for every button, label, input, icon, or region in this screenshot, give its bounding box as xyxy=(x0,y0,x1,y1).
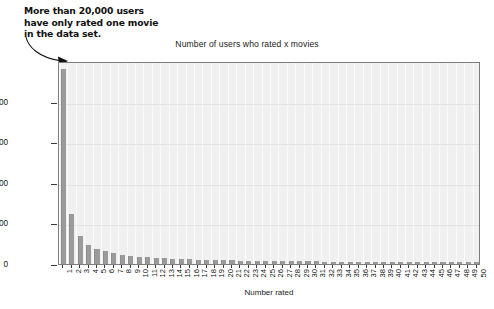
bar xyxy=(103,251,108,264)
x-axis-tick xyxy=(147,265,148,268)
x-axis-tick-label: 42 xyxy=(411,269,420,277)
bar xyxy=(331,262,336,264)
x-axis-tick-label: 26 xyxy=(276,269,285,277)
bar xyxy=(221,260,226,264)
bar xyxy=(390,262,395,264)
bar xyxy=(111,253,116,264)
bar xyxy=(86,245,91,264)
bar xyxy=(407,262,412,264)
bar xyxy=(339,262,344,264)
x-axis-tick xyxy=(79,265,80,268)
bar xyxy=(457,262,462,264)
x-axis-tick xyxy=(164,265,165,268)
bar xyxy=(432,262,437,264)
bar xyxy=(365,262,370,264)
bar xyxy=(196,260,201,264)
x-axis-tick xyxy=(425,265,426,268)
x-axis-tick xyxy=(400,265,401,268)
bar xyxy=(69,214,74,264)
x-axis-tick xyxy=(172,265,173,268)
y-axis-tick xyxy=(51,143,57,144)
x-axis-tick xyxy=(223,265,224,268)
bar xyxy=(373,262,378,264)
x-axis-tick xyxy=(155,265,156,268)
x-axis-tick xyxy=(467,265,468,268)
bar xyxy=(246,261,251,264)
x-axis-tick xyxy=(113,265,114,268)
bar xyxy=(204,260,209,264)
plot-area xyxy=(58,62,480,265)
bar-chart-figure: More than 20,000 users have only rated o… xyxy=(0,0,494,309)
bar xyxy=(322,262,327,264)
bar xyxy=(145,257,150,264)
x-axis-tick xyxy=(214,265,215,268)
x-axis-tick xyxy=(307,265,308,268)
x-axis-tick-label: 50 xyxy=(479,269,488,277)
bar xyxy=(120,255,125,264)
bar xyxy=(289,261,294,264)
y-axis-tick-label: 5,000 xyxy=(0,219,8,228)
bar xyxy=(137,257,142,264)
y-axis-tick xyxy=(51,103,57,104)
x-axis-tick xyxy=(375,265,376,268)
x-axis-tick-label: 12 xyxy=(158,269,167,277)
x-axis-tick xyxy=(273,265,274,268)
x-axis-tick xyxy=(434,265,435,268)
x-axis-tick-label: 24 xyxy=(259,269,268,277)
x-axis-tick xyxy=(88,265,89,268)
y-axis-tick xyxy=(51,265,57,266)
bar xyxy=(280,261,285,264)
x-axis-label: Number rated xyxy=(58,288,480,297)
x-axis-tick xyxy=(299,265,300,268)
x-axis-tick xyxy=(62,265,63,268)
bar xyxy=(424,262,429,264)
bar-series xyxy=(59,63,479,264)
x-axis-tick xyxy=(104,265,105,268)
bar xyxy=(94,249,99,264)
x-axis-tick xyxy=(391,265,392,268)
bar xyxy=(255,261,260,264)
x-axis-tick xyxy=(358,265,359,268)
x-axis-tick-label: 33 xyxy=(335,269,344,277)
y-axis: 05,00010,00015,00020,000 xyxy=(0,0,58,309)
x-axis-tick xyxy=(408,265,409,268)
x-axis-tick xyxy=(239,265,240,268)
bar xyxy=(449,262,454,264)
bar xyxy=(187,259,192,264)
x-axis-tick-label: 35 xyxy=(352,269,361,277)
bar xyxy=(415,262,420,264)
x-axis-tick-label: 19 xyxy=(217,269,226,277)
x-axis-tick xyxy=(96,265,97,268)
x-axis-tick-label: 44 xyxy=(428,269,437,277)
x-axis-tick xyxy=(315,265,316,268)
x-axis-tick-label: 8 xyxy=(124,269,133,273)
bar xyxy=(179,259,184,264)
bar xyxy=(154,258,159,264)
x-axis-tick xyxy=(450,265,451,268)
x-axis-tick xyxy=(459,265,460,268)
x-axis-tick xyxy=(248,265,249,268)
x-axis-tick-label: 17 xyxy=(200,269,209,277)
bar xyxy=(238,261,243,264)
x-axis-tick xyxy=(180,265,181,268)
x-axis-tick-label: 10 xyxy=(141,269,150,277)
bar xyxy=(440,262,445,264)
x-axis-tick xyxy=(417,265,418,268)
y-axis-tick xyxy=(51,224,57,225)
x-axis-tick-label: 37 xyxy=(369,269,378,277)
x-axis: 1234567891011121314151617181920212223242… xyxy=(58,265,480,309)
y-axis-tick-label: 0 xyxy=(3,260,8,269)
bar xyxy=(356,262,361,264)
bar xyxy=(61,69,66,264)
x-axis-tick xyxy=(189,265,190,268)
y-axis-tick xyxy=(51,184,57,185)
x-axis-tick-label: 3 xyxy=(82,269,91,273)
x-axis-tick xyxy=(476,265,477,268)
bar xyxy=(272,261,277,264)
x-axis-tick xyxy=(121,265,122,268)
x-axis-tick-label: 49 xyxy=(470,269,479,277)
bar xyxy=(314,261,319,264)
x-axis-tick xyxy=(197,265,198,268)
x-axis-tick xyxy=(138,265,139,268)
bar xyxy=(474,262,479,264)
